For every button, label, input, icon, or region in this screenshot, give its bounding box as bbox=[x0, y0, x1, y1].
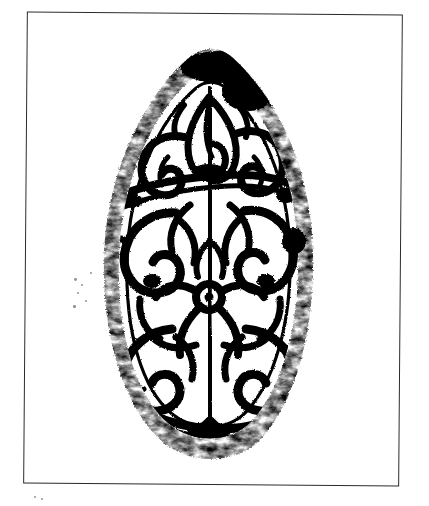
scan-speck bbox=[90, 272, 92, 274]
tile-rubbing-artwork bbox=[80, 45, 340, 470]
scan-speck bbox=[81, 284, 83, 286]
scan-speck bbox=[85, 300, 87, 302]
scan-speck bbox=[41, 498, 43, 500]
scan-speck bbox=[74, 278, 77, 281]
tile-rubbing-svg bbox=[80, 45, 340, 470]
scan-speck bbox=[34, 496, 36, 498]
figure-plate bbox=[0, 0, 429, 506]
scan-speck bbox=[73, 305, 76, 308]
